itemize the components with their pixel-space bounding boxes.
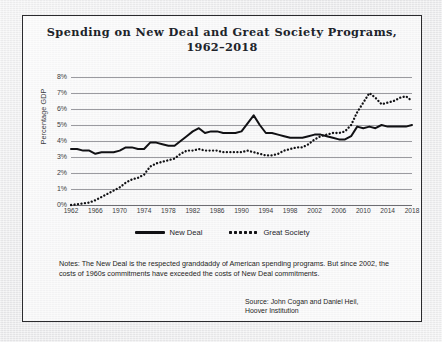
chart-notes: Notes: The New Deal is the respected gra… — [59, 259, 395, 280]
series-lines — [23, 16, 423, 226]
series-line-new-deal — [71, 115, 412, 153]
legend-item-new-deal: New Deal — [135, 228, 203, 237]
legend-swatch-solid-icon — [135, 231, 165, 234]
source-line1: Source: John Cogan and Daniel Heil, — [245, 297, 395, 306]
legend-item-great-society: Great Society — [228, 228, 309, 237]
chart-frame: Spending on New Deal and Great Society P… — [22, 15, 422, 322]
source-line2: Hoover Institution — [245, 306, 395, 315]
chart-legend: New Deal Great Society — [23, 228, 421, 237]
legend-label-great-society: Great Society — [263, 228, 309, 237]
legend-label-new-deal: New Deal — [170, 228, 203, 237]
chart-source: Source: John Cogan and Daniel Heil, Hoov… — [245, 297, 395, 316]
legend-swatch-dotted-icon — [228, 231, 258, 234]
